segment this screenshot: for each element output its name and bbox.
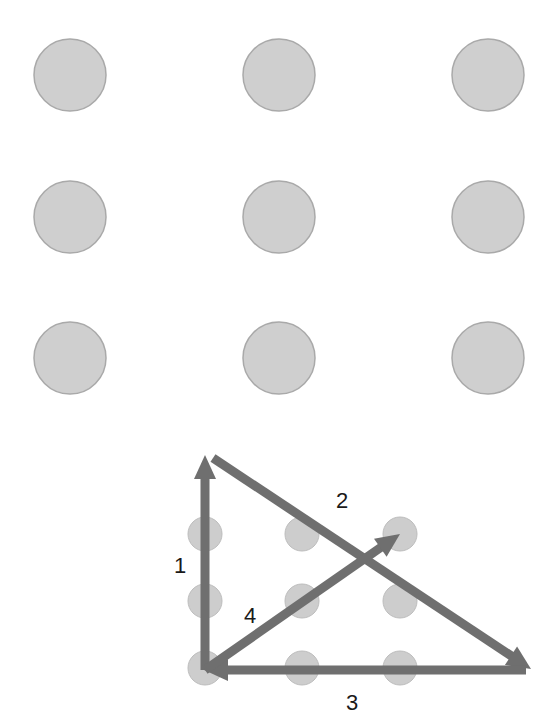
nine-dot-diagram: 1 2 3 4 <box>0 0 549 723</box>
step-label-4: 4 <box>244 603 256 628</box>
puzzle-dot-r1-c2 <box>243 39 315 111</box>
puzzle-dot-r1-c1 <box>34 39 106 111</box>
puzzle-dot-r3-c2 <box>243 322 315 394</box>
step-label-1: 1 <box>174 553 186 578</box>
puzzle-dot-r2-c2 <box>243 181 315 253</box>
step-label-3: 3 <box>346 690 358 715</box>
puzzle-dot-r2-c3 <box>452 181 524 253</box>
step-3-arrow <box>204 659 526 681</box>
step-2-arrow <box>213 458 531 669</box>
solution-path <box>194 455 531 681</box>
step-4-line <box>205 547 382 670</box>
step-label-2: 2 <box>336 488 348 513</box>
puzzle-dot-grid <box>34 39 524 394</box>
step-4-arrow <box>205 534 400 670</box>
step-1-arrow <box>194 455 216 670</box>
puzzle-dot-r3-c1 <box>34 322 106 394</box>
puzzle-dot-r3-c3 <box>452 322 524 394</box>
puzzle-dot-r1-c3 <box>452 39 524 111</box>
puzzle-dot-r2-c1 <box>34 181 106 253</box>
